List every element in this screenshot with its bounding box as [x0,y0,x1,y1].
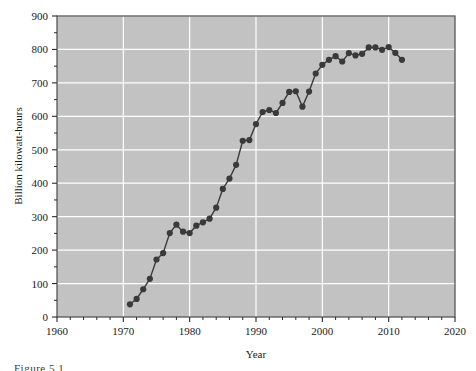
data-point [160,250,166,256]
data-point [180,229,186,235]
svg-text:2000: 2000 [311,325,334,337]
data-point [226,175,232,181]
svg-text:2010: 2010 [378,325,401,337]
data-point [266,107,272,113]
data-point [153,256,159,262]
data-point [273,110,279,116]
data-point [286,89,292,95]
svg-text:1980: 1980 [179,325,202,337]
figure-caption: Figure 5.1 [14,362,64,371]
svg-text:900: 900 [32,10,49,22]
svg-text:400: 400 [32,177,49,189]
svg-text:1990: 1990 [245,325,268,337]
x-axis-ticks [57,317,455,322]
svg-text:0: 0 [43,311,49,323]
svg-text:100: 100 [32,278,49,290]
svg-text:2020: 2020 [444,325,467,337]
line-chart: 0100200300400500600700800900 19601970198… [0,0,476,371]
x-axis-title: Year [206,348,306,360]
y-axis-title: Billion kilowatt-hours [12,86,24,226]
data-point [206,216,212,222]
data-point [260,109,266,115]
data-point [220,186,226,192]
svg-text:700: 700 [32,77,49,89]
data-point [293,88,299,94]
data-point [319,62,325,68]
data-point [352,52,358,58]
data-point [246,137,252,143]
data-point [233,162,239,168]
svg-text:800: 800 [32,43,49,55]
svg-text:500: 500 [32,144,49,156]
y-axis-tick-labels: 0100200300400500600700800900 [32,10,49,323]
data-point [339,58,345,64]
svg-text:300: 300 [32,211,49,223]
data-point [372,44,378,50]
data-point [253,121,259,127]
data-point [359,51,365,57]
data-point [127,301,133,307]
data-point [313,70,319,76]
data-point [392,50,398,56]
data-point [379,47,385,53]
y-axis-ticks [52,16,57,317]
data-point [366,44,372,50]
svg-text:600: 600 [32,110,49,122]
data-point [306,88,312,94]
data-point [279,100,285,106]
data-point [147,276,153,282]
data-point [213,205,219,211]
data-point [134,296,140,302]
data-point [240,138,246,144]
data-point [326,57,332,63]
x-axis-tick-labels: 1960197019801990200020102020 [46,325,467,337]
data-point [386,44,392,50]
svg-text:200: 200 [32,244,49,256]
figure-container: 0100200300400500600700800900 19601970198… [0,0,476,371]
data-point [346,50,352,56]
data-point [187,230,193,236]
data-point [399,57,405,63]
data-point [200,219,206,225]
svg-text:1960: 1960 [46,325,69,337]
data-point [173,222,179,228]
data-point [333,53,339,59]
svg-text:1970: 1970 [112,325,135,337]
data-point [167,230,173,236]
data-point [299,104,305,110]
data-point [193,223,199,229]
data-point [140,286,146,292]
